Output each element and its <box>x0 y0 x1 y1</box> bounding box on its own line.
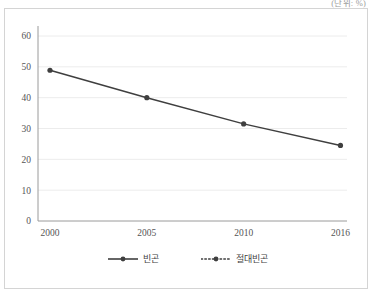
data-point-marker <box>47 68 52 73</box>
solid-line-marker-icon <box>108 254 138 264</box>
data-point-marker <box>338 143 343 148</box>
legend-item-absolute-poverty[interactable]: 절대빈곤 <box>201 252 268 265</box>
grid-lines <box>38 36 347 190</box>
line-chart-svg: 0102030405060 2000200520102016 <box>0 0 376 295</box>
series-lines <box>50 70 340 145</box>
y-tick-label: 20 <box>22 155 32 165</box>
data-point-marker <box>241 121 246 126</box>
x-tick-label: 2016 <box>331 228 350 238</box>
x-tick-label: 2000 <box>41 228 60 238</box>
legend-item-poverty[interactable]: 빈곤 <box>108 252 159 265</box>
y-tick-labels: 0102030405060 <box>22 31 32 226</box>
y-tick-label: 10 <box>22 186 32 196</box>
y-tick-label: 30 <box>22 124 32 134</box>
x-tick-label: 2010 <box>234 228 253 238</box>
y-tick-label: 40 <box>22 93 32 103</box>
data-point-marker <box>144 95 149 100</box>
series-line-solid <box>50 70 340 145</box>
dotted-line-marker-icon <box>201 254 231 264</box>
plot-area: 0102030405060 2000200520102016 <box>0 0 376 295</box>
legend: 빈곤 절대빈곤 <box>0 252 376 265</box>
y-tick-label: 0 <box>26 216 31 226</box>
y-tick-label: 50 <box>22 62 32 72</box>
y-tick-label: 60 <box>22 31 32 41</box>
legend-label-poverty: 빈곤 <box>143 252 159 265</box>
x-tick-labels: 2000200520102016 <box>41 228 351 238</box>
x-tick-label: 2005 <box>137 228 156 238</box>
legend-label-absolute-poverty: 절대빈곤 <box>236 252 268 265</box>
